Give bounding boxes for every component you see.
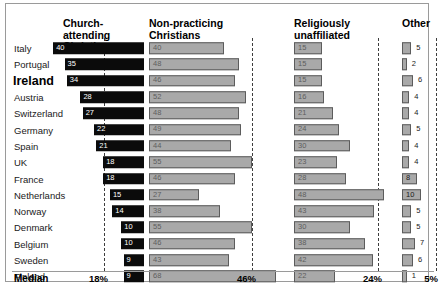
bar-church-attending: 15 (110, 189, 144, 201)
bar-church-attending: 18 (103, 156, 144, 168)
bar-value: 28 (83, 93, 91, 101)
country-label: Ireland (13, 74, 54, 88)
bar-non-practicing: 48 (149, 108, 239, 120)
bar-church-attending: 10 (121, 238, 144, 250)
bar-value: 4 (414, 158, 418, 166)
chart-row: Germany2249245 (6, 121, 442, 137)
bar-value: 42 (298, 256, 306, 264)
bar-church-attending: 28 (80, 91, 144, 103)
chart-row: Italy4040155 (6, 40, 442, 56)
bar-value: 15 (113, 191, 121, 199)
bar-value: 55 (153, 223, 161, 231)
chart-frame: Church-attending Christians Non-practici… (5, 3, 429, 282)
bar-value: 38 (153, 207, 161, 215)
median-value-unaffiliated: 24% (342, 273, 382, 284)
bar-value: 30 (298, 142, 306, 150)
country-label: Sweden (14, 255, 48, 266)
bar-non-practicing: 46 (149, 75, 235, 87)
bar-non-practicing: 43 (149, 254, 229, 266)
bar-other: 4 (402, 156, 409, 168)
bar-value: 15 (298, 60, 306, 68)
bar-value: 48 (298, 191, 306, 199)
chart-row: France1846288 (6, 170, 442, 186)
bar-non-practicing: 44 (149, 140, 231, 152)
bar-value: 44 (153, 142, 161, 150)
bar-unaffiliated: 43 (294, 205, 374, 217)
bar-value: 10 (406, 191, 414, 199)
bar-value: 38 (298, 240, 306, 248)
bar-church-attending: 9 (124, 254, 144, 266)
bar-value: 15 (298, 44, 306, 52)
country-label: Netherlands (14, 189, 65, 200)
bar-value: 28 (298, 175, 306, 183)
bar-value: 48 (153, 109, 161, 117)
bar-church-attending: 40 (53, 42, 144, 54)
bar-value: 40 (56, 44, 64, 52)
bar-value: 2 (412, 60, 416, 68)
bar-value: 15 (298, 77, 306, 85)
chart-row: Ireland3446156 (6, 73, 442, 89)
country-label: Spain (14, 140, 38, 151)
bar-value: 43 (153, 256, 161, 264)
bar-non-practicing: 52 (149, 91, 246, 103)
bar-value: 24 (298, 126, 306, 134)
country-label: Norway (14, 206, 46, 217)
median-value-other: 5% (398, 273, 438, 284)
bar-other: 5 (402, 42, 411, 54)
bar-value: 27 (86, 109, 94, 117)
country-label: Portugal (14, 59, 49, 70)
bar-value: 9 (127, 256, 131, 264)
bar-value: 10 (124, 240, 132, 248)
bar-value: 49 (153, 126, 161, 134)
country-label: France (14, 173, 44, 184)
median-label: Median (14, 273, 48, 284)
bar-unaffiliated: 15 (294, 42, 322, 54)
chart-row: Norway1438435 (6, 203, 442, 219)
bar-value: 4 (414, 142, 418, 150)
chart-row: Denmark1055305 (6, 219, 442, 235)
chart-row: Sweden943426 (6, 252, 442, 268)
bar-church-attending: 34 (67, 75, 144, 87)
bar-unaffiliated: 23 (294, 156, 337, 168)
column-header-non-practicing: Non-practicing Christians (149, 18, 244, 41)
bar-value: 46 (153, 240, 161, 248)
country-label: Switzerland (14, 108, 63, 119)
bar-church-attending: 14 (112, 205, 144, 217)
bar-other: 4 (402, 91, 409, 103)
bar-non-practicing: 38 (149, 205, 220, 217)
bar-value: 55 (153, 158, 161, 166)
bar-non-practicing: 48 (149, 59, 239, 71)
bar-other: 4 (402, 108, 409, 120)
bar-value: 43 (298, 207, 306, 215)
chart-row: Belgium1046387 (6, 236, 442, 252)
bar-value: 21 (99, 142, 107, 150)
bar-value: 10 (124, 223, 132, 231)
bar-unaffiliated: 21 (294, 108, 333, 120)
chart-row: Netherlands15274810 (6, 187, 442, 203)
bar-church-attending: 35 (65, 59, 144, 71)
bar-value: 27 (153, 191, 161, 199)
bar-value: 7 (420, 240, 424, 248)
country-label: UK (14, 157, 27, 168)
bar-other: 5 (402, 124, 411, 136)
bar-church-attending: 21 (96, 140, 144, 152)
bar-unaffiliated: 24 (294, 124, 339, 136)
country-label: Italy (14, 43, 31, 54)
bar-value: 4 (414, 93, 418, 101)
bar-unaffiliated: 28 (294, 173, 346, 185)
bar-value: 8 (406, 175, 410, 183)
bar-value: 16 (298, 93, 306, 101)
chart-row: Spain2144304 (6, 138, 442, 154)
bar-value: 5 (416, 126, 420, 134)
bar-church-attending: 18 (103, 173, 144, 185)
bar-non-practicing: 40 (149, 42, 224, 54)
bar-value: 14 (115, 207, 123, 215)
bar-other: 6 (402, 254, 413, 266)
bar-value: 22 (97, 126, 105, 134)
chart-rows: Italy4040155Portugal3548152Ireland344615… (6, 40, 442, 284)
bar-value: 4 (414, 109, 418, 117)
bar-non-practicing: 55 (149, 222, 252, 234)
country-label: Belgium (14, 238, 48, 249)
bar-value: 18 (106, 158, 114, 166)
bar-unaffiliated: 15 (294, 75, 322, 87)
